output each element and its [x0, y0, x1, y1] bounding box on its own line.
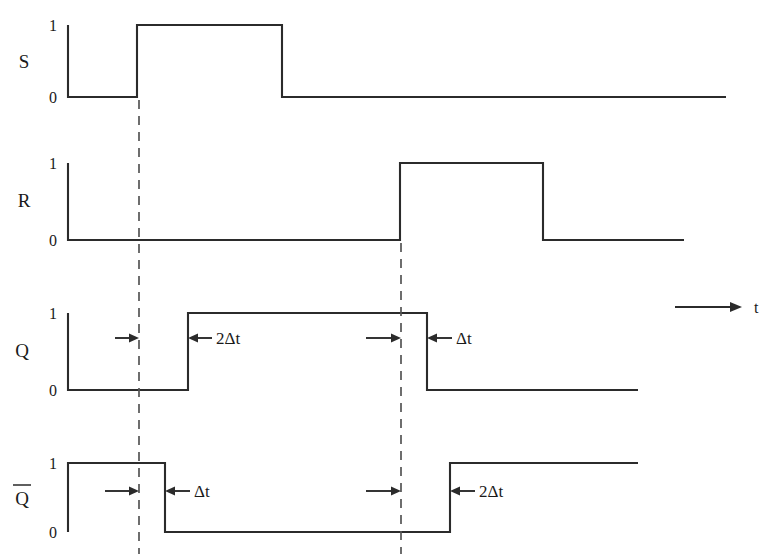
signal-row-q: Q 1 0: [15, 305, 638, 399]
timing-diagram-canvas: S 1 0 R 1 0 Q 1 0 Q 1 0 2: [0, 0, 764, 554]
q-rise-delay-left-arrow-arrowhead-icon: [129, 333, 139, 342]
signal-row-s: S 1 0: [19, 17, 726, 106]
signal-label-r: R: [18, 190, 31, 211]
annotation-qbar-fall-delay: Δt: [105, 482, 210, 501]
qbar-rise-delay-left-arrow-arrowhead-icon: [391, 486, 401, 495]
annotation-qbar-rise-delay: 2Δt: [366, 482, 503, 501]
waveform-s: [68, 25, 726, 97]
level-label-high-s: 1: [49, 17, 57, 34]
level-label-high-r: 1: [49, 155, 57, 172]
time-axis-arrowhead-icon: [730, 302, 742, 312]
qbar-rise-delay-right-arrow-arrowhead-icon: [450, 486, 460, 495]
signal-row-r: R 1 0: [18, 155, 684, 249]
signal-label-qbar: Q: [15, 488, 29, 509]
waveform-r: [68, 163, 684, 240]
q-fall-delay-left-arrow-arrowhead-icon: [391, 333, 401, 342]
level-label-low-q: 0: [49, 382, 57, 399]
level-label-low-qbar: 0: [49, 524, 57, 541]
annotation-q-fall-delay: Δt: [366, 329, 472, 348]
qbar-fall-delay-left-arrow-arrowhead-icon: [129, 486, 139, 495]
annotation-label-q-rise-delay: 2Δt: [216, 329, 240, 348]
reference-lines: [139, 100, 401, 554]
level-label-high-q: 1: [49, 305, 57, 322]
level-label-low-s: 0: [49, 89, 57, 106]
signal-label-s: S: [19, 51, 30, 72]
signal-row-qbar: Q 1 0: [13, 455, 638, 541]
time-axis: t: [675, 299, 759, 316]
annotation-q-rise-delay: 2Δt: [115, 329, 240, 348]
qbar-fall-delay-right-arrow-arrowhead-icon: [165, 486, 175, 495]
annotation-label-qbar-rise-delay: 2Δt: [479, 482, 503, 501]
level-label-high-qbar: 1: [49, 455, 57, 472]
waveform-q: [68, 313, 638, 390]
q-rise-delay-right-arrow-arrowhead-icon: [188, 333, 198, 342]
signal-label-q: Q: [15, 340, 29, 361]
waveform-qbar: [68, 463, 638, 532]
annotation-label-qbar-fall-delay: Δt: [194, 482, 210, 501]
q-fall-delay-right-arrow-arrowhead-icon: [427, 333, 437, 342]
timing-diagram-figure: S 1 0 R 1 0 Q 1 0 Q 1 0 2: [0, 0, 764, 554]
annotation-label-q-fall-delay: Δt: [456, 329, 472, 348]
level-label-low-r: 0: [49, 232, 57, 249]
time-axis-label: t: [754, 299, 759, 316]
